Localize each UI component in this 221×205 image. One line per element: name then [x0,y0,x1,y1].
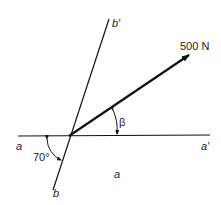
region-label: a [114,168,120,180]
beta-label: β [119,116,125,128]
line-b-end-label: b′ [112,17,121,29]
beta-angle-arc [113,110,117,134]
line-a-end-label: a′ [201,140,210,152]
line-b-start-label: b [53,187,59,199]
line-a-a-prime [18,135,210,136]
line-b-b-prime [53,19,109,190]
force-vector-arrow [69,55,189,136]
line-a-start-label: a [16,140,22,152]
force-label: 500 N [180,40,209,52]
force-diagram: 500 N β 70° a a′ b b′ a [0,0,221,205]
seventy-degree-label: 70° [33,151,50,163]
